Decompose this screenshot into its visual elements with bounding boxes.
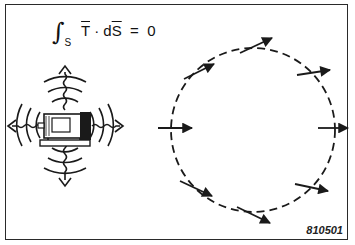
intensity-vectors bbox=[158, 38, 348, 223]
vector-arrow-icon bbox=[180, 181, 212, 196]
vector-arrow-icon bbox=[240, 38, 272, 53]
diagram-canvas bbox=[0, 0, 355, 245]
vector-arrow-icon bbox=[295, 184, 328, 191]
wave-right-icon bbox=[92, 125, 120, 128]
vector-arrow-icon bbox=[184, 64, 214, 79]
vector-arrow-icon bbox=[237, 207, 270, 223]
vector-arrow-icon bbox=[297, 70, 330, 75]
closed-surface-illustration bbox=[158, 38, 348, 223]
motor-sound-illustration bbox=[8, 66, 123, 186]
motor-icon bbox=[38, 112, 91, 146]
wave-down-icon bbox=[64, 142, 67, 180]
wave-up-icon bbox=[64, 72, 67, 110]
figure-id: 810501 bbox=[306, 224, 343, 236]
